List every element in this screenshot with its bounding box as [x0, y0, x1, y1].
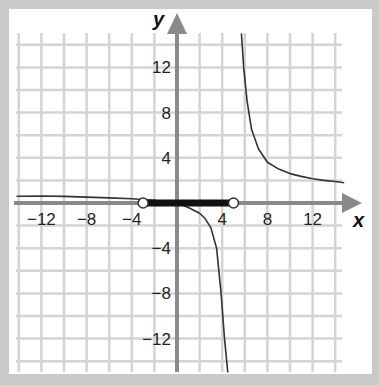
open-circle-icon	[229, 198, 239, 208]
x-tick-label: −4	[122, 210, 141, 229]
x-tick-label: 4	[217, 210, 226, 229]
y-axis-arrow-icon	[167, 13, 187, 34]
x-axis-label: x	[352, 209, 365, 231]
x-tick-label: 8	[263, 210, 272, 229]
coordinate-plane: −12−8−448121284−4−8−12 x y	[0, 0, 379, 385]
y-axis-label: y	[152, 8, 165, 30]
y-tick-label: 4	[162, 149, 171, 168]
x-tick-label: −8	[77, 210, 96, 229]
y-tick-label: 8	[162, 104, 171, 123]
y-tick-label: −12	[142, 330, 171, 349]
curve-right-branch	[241, 34, 344, 183]
x-tick-label: 12	[303, 210, 322, 229]
open-circle-icon	[138, 198, 148, 208]
y-tick-label: −4	[152, 239, 171, 258]
highlighted-interval	[138, 198, 238, 208]
y-tick-label: −8	[152, 284, 171, 303]
y-tick-label: 12	[152, 58, 171, 77]
x-tick-label: −12	[27, 210, 56, 229]
